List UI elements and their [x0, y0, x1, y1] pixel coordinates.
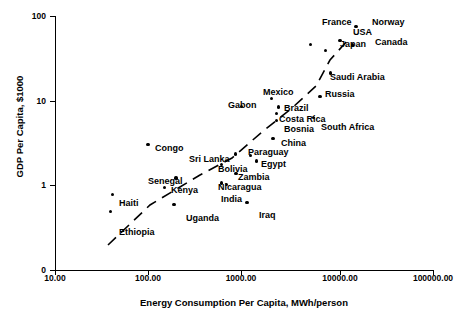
point-label-norway: Norway	[372, 18, 405, 27]
point-marker	[270, 97, 273, 100]
y-tick-100	[50, 16, 55, 17]
point-marker	[111, 193, 114, 196]
point-label-france: France	[322, 18, 352, 27]
point-label-paraguay: Paraguay	[248, 148, 289, 157]
point-marker	[309, 43, 312, 46]
point-label-ethiopia: Ethiopia	[119, 228, 155, 237]
point-label-costa-rica: Costa Rica	[279, 115, 326, 124]
point-label-iraq: Iraq	[259, 211, 276, 220]
point-label-usa: USA	[353, 28, 372, 37]
point-marker	[318, 95, 321, 98]
point-marker	[109, 210, 112, 213]
point-label-saudi-arabia: Saudi Arabia	[330, 73, 385, 82]
x-tick-label-10000: 10000.00	[306, 273, 374, 283]
point-label-brazil: Brazil	[284, 104, 309, 113]
x-axis-title: Energy Consumption Per Capita, MWh/perso…	[55, 297, 433, 308]
point-label-egypt: Egypt	[261, 160, 286, 169]
point-label-russia: Russia	[325, 90, 355, 99]
point-label-uganda: Uganda	[186, 214, 219, 223]
y-axis-title: GDP Per Capita, $1000	[14, 52, 25, 202]
point-label-canada: Canada	[375, 38, 408, 47]
y-tick-10	[50, 101, 55, 102]
point-marker	[255, 159, 258, 162]
point-label-india: India	[221, 195, 242, 204]
point-label-kenya: Kenya	[171, 186, 198, 195]
point-marker	[146, 143, 149, 146]
point-label-south-africa: South Africa	[321, 123, 374, 132]
point-marker	[271, 137, 274, 140]
y-axis-line	[55, 16, 56, 270]
point-label-bosnia: Bosnia	[284, 125, 314, 134]
point-label-gabon: Gabon	[228, 101, 257, 110]
x-tick-label-1000: 1000.00	[210, 273, 272, 283]
point-label-nicaragua: Nicaragua	[218, 183, 262, 192]
point-label-haiti: Haiti	[119, 199, 139, 208]
point-label-mexico: Mexico	[263, 88, 294, 97]
point-label-zambia: Zambia	[238, 173, 270, 182]
point-marker	[172, 203, 175, 206]
point-marker	[234, 152, 237, 155]
x-axis-line	[55, 270, 433, 271]
point-label-sri-lanka: Sri Lanka	[189, 155, 230, 164]
point-marker	[245, 201, 248, 204]
x-tick-label-100000: 100000.00	[396, 273, 464, 283]
point-marker	[277, 105, 280, 108]
point-marker	[275, 119, 278, 122]
point-label-japan: Japan	[340, 40, 366, 49]
x-tick-label-10: 10.00	[30, 273, 80, 283]
y-tick-1	[50, 185, 55, 186]
scatter-chart: 100 10 1 0 10.00 100.00 1000.00 10000.00…	[0, 0, 464, 323]
point-marker	[163, 186, 166, 189]
x-tick-label-100: 100.00	[120, 273, 176, 283]
point-marker	[275, 112, 278, 115]
point-marker	[324, 49, 327, 52]
y-tick-label-100: 100	[0, 11, 46, 21]
point-label-congo: Congo	[155, 144, 184, 153]
